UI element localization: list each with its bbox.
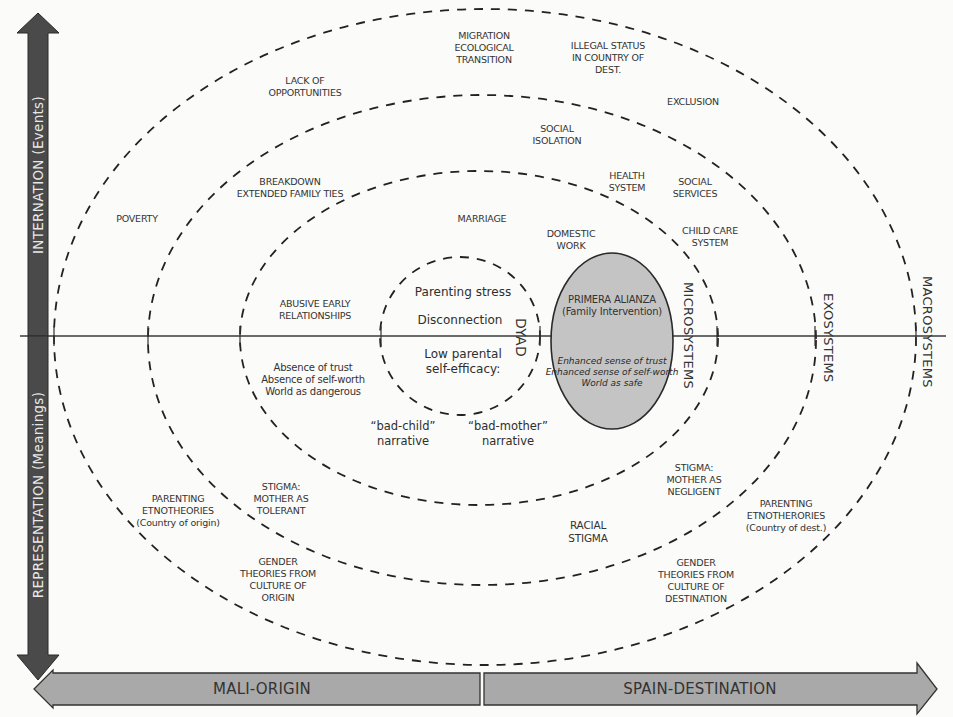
health-system-label: HEALTH SYSTEM — [609, 170, 646, 194]
gender-theories-origin-label: GENDER THEORIES FROM CULTURE OF ORIGIN — [240, 556, 316, 604]
bad-child-narrative-label: “bad-child” narrative — [370, 419, 435, 449]
macrosystems-label: MACROSYSTEMS — [920, 276, 935, 388]
social-isolation-label: SOCIAL ISOLATION — [533, 123, 582, 147]
disconnection-label: Disconnection — [418, 313, 503, 328]
domestic-work-label: DOMESTIC WORK — [547, 228, 596, 252]
breakdown-family-ties-label: BREAKDOWN EXTENDED FAMILY TIES — [237, 176, 344, 200]
illegal-status-label: ILLEGAL STATUS IN COUNTRY OF DEST. — [571, 40, 645, 76]
primera-alianza-title: PRIMERA ALIANZA (Family Intervention) — [562, 294, 662, 318]
microsystems-label: MICROSYSTEMS — [681, 282, 696, 389]
representation-meanings-label: REPRESENTATION (Meanings) — [30, 392, 46, 599]
stigma-tolerant-label: STIGMA: MOTHER AS TOLERANT — [254, 481, 309, 517]
dyad-label: DYAD — [513, 318, 529, 357]
mali-origin-label: MALI-ORIGIN — [213, 680, 311, 698]
stigma-negligent-label: STIGMA: MOTHER AS NEGLIGENT — [667, 462, 722, 498]
exclusion-label: EXCLUSION — [667, 96, 719, 108]
abusive-relationships-label: ABUSIVE EARLY RELATIONSHIPS — [279, 298, 351, 322]
poverty-label: POVERTY — [116, 213, 158, 225]
migration-transition-label: MIGRATION ECOLOGICAL TRANSITION — [454, 30, 513, 66]
etnotheories-dest-label: PARENTING ETNOTHERORIES (Country of dest… — [746, 498, 826, 534]
spain-destination-label: SPAIN-DESTINATION — [623, 680, 776, 698]
exosystems-label: EXOSYSTEMS — [821, 293, 836, 383]
marriage-label: MARRIAGE — [458, 213, 507, 225]
absence-of-trust-label: Absence of trust Absence of self-worth W… — [261, 362, 365, 398]
parenting-stress-label: Parenting stress — [415, 285, 511, 300]
origin-destination-arrow — [34, 663, 937, 714]
gender-theories-dest-label: GENDER THEORIES FROM CULTURE OF DESTINAT… — [658, 557, 734, 605]
macrosystems-ellipse — [54, 9, 916, 665]
bad-mother-narrative-label: “bad-mother” narrative — [468, 419, 548, 449]
intervention-outcomes: Enhanced sense of trust Enhanced sense o… — [546, 356, 679, 389]
primera-alianza-ellipse — [551, 253, 673, 429]
low-self-efficacy-label: Low parental self-efficacy: — [424, 347, 501, 377]
lack-of-opportunities-label: LACK OF OPPORTUNITIES — [268, 75, 341, 99]
exosystems-ellipse — [148, 95, 816, 585]
etnotheories-origin-label: PARENTING ETNOTHEORIES (Country of origi… — [136, 493, 220, 529]
ecological-diagram: INTERNATION (Events) REPRESENTATION (Mea… — [0, 0, 953, 717]
racial-stigma-label: RACIAL STIGMA — [568, 519, 607, 545]
social-services-label: SOCIAL SERVICES — [673, 176, 717, 200]
child-care-system-label: CHILD CARE SYSTEM — [682, 225, 738, 249]
internation-events-label: INTERNATION (Events) — [30, 96, 46, 254]
